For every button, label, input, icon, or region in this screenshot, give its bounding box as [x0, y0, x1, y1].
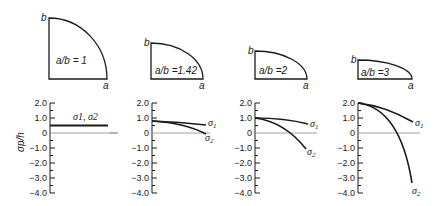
y-tick: −4.0: [29, 188, 47, 198]
y-tick: 1.0: [136, 113, 149, 123]
corner-a-label: a: [303, 80, 309, 91]
y-tick: −2.0: [234, 158, 252, 168]
y-tick: −1.0: [337, 143, 355, 153]
ratio-label: a/b =1.42: [155, 65, 197, 76]
plate-shape-1: b a a/b = 1: [41, 12, 109, 91]
plate-shape-2: b a a/b =1.42: [144, 37, 205, 91]
series-label-s2: σ2: [412, 185, 421, 198]
y-tick: −3.0: [337, 173, 355, 183]
y-tick: −4.0: [131, 188, 149, 198]
y-axis-label: σp/h: [15, 132, 26, 152]
plate-shape-4: b a a/b =3: [351, 54, 414, 91]
y-tick: 0: [247, 128, 252, 138]
corner-a-label: a: [103, 80, 109, 91]
ratio-label: a/b =2: [259, 65, 288, 76]
plot-3: 2.0 1.0 0 −1.0 −2.0 −3.0 −4.0 σ1 σ2: [234, 98, 318, 198]
ratio-label: a/b = 1: [56, 55, 87, 66]
plot-2: 2.0 1.0 0 −1.0 −2.0 −3.0 −4.0 σ1 σ2: [110, 98, 216, 198]
y-tick: 1.0: [34, 113, 47, 123]
y-tick: −3.0: [29, 173, 47, 183]
series-line-s1: [358, 103, 413, 122]
corner-a-label: a: [408, 80, 414, 91]
corner-b-label: b: [41, 12, 47, 23]
figure-canvas: b a a/b = 1 b a a/b =1.42 b a a/b =2 b a…: [0, 0, 437, 206]
series-label-combined: σ1, σ2: [73, 111, 98, 122]
series-line-s2: [255, 118, 306, 149]
y-tick: 1.0: [342, 113, 355, 123]
y-tick: −2.0: [29, 158, 47, 168]
y-tick: 0: [144, 128, 149, 138]
series-label-s2: σ2: [307, 146, 316, 159]
y-tick: 2.0: [342, 98, 355, 108]
series-line-s2: [358, 103, 412, 183]
corner-b-label: b: [351, 54, 357, 65]
series-label-s1: σ1: [415, 117, 423, 130]
y-tick: −2.0: [131, 158, 149, 168]
corner-b-label: b: [248, 45, 254, 56]
series-label-s1: σ1: [310, 118, 318, 131]
y-tick: 0: [42, 128, 47, 138]
corner-b-label: b: [144, 37, 150, 48]
plot-4: 2.0 1.0 0 −1.0 −2.0 −3.0 −4.0 σ1 σ2: [337, 98, 423, 198]
y-tick: 1.0: [239, 113, 252, 123]
series-label-s1: σ1: [208, 117, 216, 130]
y-tick: −4.0: [234, 188, 252, 198]
plate-shape-3: b a a/b =2: [248, 45, 309, 91]
y-tick: 2.0: [239, 98, 252, 108]
y-tick: −1.0: [131, 143, 149, 153]
y-tick: −1.0: [29, 143, 47, 153]
y-tick: 2.0: [136, 98, 149, 108]
plot-1: 2.0 1.0 0 −1.0 −2.0 −3.0 −4.0 σ1, σ2: [29, 98, 118, 198]
y-tick: −1.0: [234, 143, 252, 153]
corner-a-label: a: [199, 80, 205, 91]
y-tick: −4.0: [337, 188, 355, 198]
y-tick: −3.0: [131, 173, 149, 183]
y-tick: −2.0: [337, 158, 355, 168]
y-tick: 2.0: [34, 98, 47, 108]
y-tick: −3.0: [234, 173, 252, 183]
series-label-s2: σ2: [205, 132, 214, 145]
y-tick: 0: [350, 128, 355, 138]
ratio-label: a/b =3: [361, 67, 390, 78]
